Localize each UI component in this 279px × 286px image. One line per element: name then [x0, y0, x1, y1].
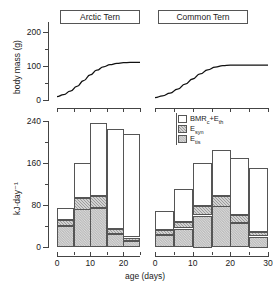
arctic-tern-energy-bar-3-esyn	[107, 229, 124, 234]
bottom-y-tick-label-240: 240	[16, 117, 41, 125]
common-tern-energy-x-tick-label-20: 20	[220, 259, 240, 267]
arctic-tern-energy-x-tick-label-0: 0	[47, 259, 67, 267]
bottom-y-minor-tick-120	[45, 184, 49, 185]
legend-label-etis: Etis	[190, 135, 201, 146]
arctic-tern-energy-x-tick-20	[123, 252, 124, 257]
arctic-tern-energy-bar-1-esyn	[74, 198, 91, 210]
common-tern-energy-x-tick-0	[155, 252, 156, 257]
legend-label-bmr-eth: BMRc+Eth	[190, 115, 223, 126]
common-tern-energy-x-tick-30	[268, 252, 269, 257]
arctic-tern-energy-bar-2-bmr-eth	[90, 123, 107, 196]
common-tern-energy-x-tick-label-0: 0	[145, 259, 165, 267]
bottom-y-minor-tick-200	[45, 142, 49, 143]
arctic-tern-energy-bar-4-etis	[123, 241, 140, 247]
arctic-tern-energy-x-tick-0	[57, 252, 58, 257]
arctic-tern-energy-x-axis	[57, 256, 140, 257]
arctic-tern-energy-bar-2-etis	[90, 208, 107, 247]
arctic-tern-energy-x-tick-15	[107, 252, 108, 255]
bottom-y-major-tick-80	[43, 205, 49, 206]
common-tern-energy-bar-1-esyn	[174, 222, 193, 228]
arctic-tern-energy-bar-2-esyn	[90, 196, 107, 208]
common-tern-energy-bar-1-bmr-eth	[174, 189, 193, 222]
arctic-tern-energy-bar-4-bmr-eth	[123, 134, 140, 237]
legend-swatch-etis	[178, 135, 187, 143]
figure-root: Arctic TernCommon Tern0100200body mass (…	[0, 0, 279, 286]
common-tern-energy-bar-0-esyn	[155, 230, 174, 235]
common-tern-energy-bar-4-esyn	[230, 215, 249, 223]
arctic-tern-energy-bar-3-etis	[107, 234, 124, 247]
common-tern-energy-x-tick-15	[212, 252, 213, 255]
common-tern-energy-bar-0-etis	[155, 235, 174, 247]
bottom-y-major-tick-160	[43, 163, 49, 164]
arctic-tern-energy-bar-0-etis	[57, 226, 74, 247]
common-tern-energy-bar-0-bmr-eth	[155, 211, 174, 230]
bottom-y-major-tick-240	[43, 121, 49, 122]
common-tern-energy-bar-1-etis	[174, 229, 193, 247]
common-tern-energy-bar-2-bmr-eth	[193, 163, 212, 206]
common-tern-energy-bar-5-etis	[249, 237, 268, 248]
arctic-tern-energy-x-tick-5	[74, 252, 75, 255]
common-tern-energy-bar-3-bmr-eth	[212, 150, 231, 196]
common-tern-energy-x-tick-label-10: 10	[183, 259, 203, 267]
common-tern-energy-x-axis	[155, 256, 268, 257]
common-tern-energy-bar-2-esyn	[193, 206, 212, 215]
bottom-y-tick-label-160: 160	[16, 159, 41, 167]
common-tern-energy-x-tick-20	[230, 252, 231, 257]
common-tern-energy-bar-2-etis	[193, 216, 212, 248]
bottom-panel-y-axis-label: kJ·day⁻¹	[12, 182, 22, 215]
common-tern-energy-bar-3-etis	[212, 206, 231, 247]
common-tern-energy-x-tick-label-30: 30	[258, 259, 278, 267]
arctic-tern-energy-x-tick-25	[140, 252, 141, 255]
bottom-y-minor-tick-40	[45, 226, 49, 227]
common-tern-energy-bar-4-etis	[230, 223, 249, 247]
arctic-tern-energy-bar-3-bmr-eth	[107, 129, 124, 229]
bottom-y-major-tick-0	[43, 247, 49, 248]
common-tern-energy-bar-5-bmr-eth	[249, 168, 268, 232]
common-tern-energy-x-tick-10	[193, 252, 194, 257]
common-tern-energy-bar-5-esyn	[249, 232, 268, 236]
arctic-tern-energy-bar-4-esyn	[123, 238, 140, 241]
arctic-tern-energy-bar-1-etis	[74, 209, 91, 247]
common-tern-energy-x-tick-5	[174, 252, 175, 255]
common-tern-energy-x-tick-25	[249, 252, 250, 255]
arctic-tern-energy-bar-0-esyn	[57, 220, 74, 226]
legend-swatch-esyn	[178, 125, 187, 133]
x-axis-label: age (days)	[125, 271, 165, 281]
arctic-tern-energy-x-tick-10	[90, 252, 91, 257]
common-tern-energy-bar-4-bmr-eth	[230, 158, 249, 215]
arctic-tern-energy-x-tick-label-20: 20	[113, 259, 133, 267]
arctic-tern-energy-bar-0-bmr-eth	[57, 208, 74, 220]
bottom-y-tick-label-0: 0	[16, 243, 41, 251]
arctic-tern-energy-bar-1-bmr-eth	[74, 163, 91, 198]
common-tern-energy-bar-3-esyn	[212, 196, 231, 207]
legend-swatch-bmr-eth	[178, 115, 187, 123]
arctic-tern-energy-x-tick-label-10: 10	[80, 259, 100, 267]
